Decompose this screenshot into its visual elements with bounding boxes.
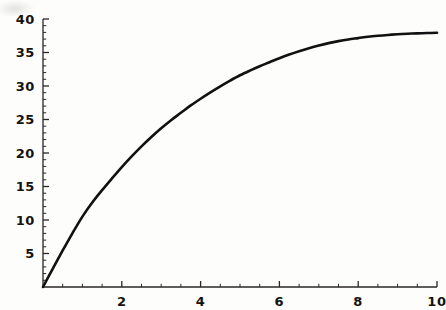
x-axis-tick-label: 10 — [427, 294, 446, 309]
chart-figure: 510152025303540 246810 — [0, 0, 446, 310]
data-series-group — [43, 33, 437, 287]
y-axis-tick-label: 35 — [16, 45, 35, 60]
plot-canvas: 510152025303540 246810 — [0, 0, 446, 310]
x-axis: 246810 — [43, 281, 446, 309]
x-axis-tick-label: 6 — [275, 294, 285, 309]
x-axis-tick-label: 2 — [117, 294, 127, 309]
y-axis-tick-label: 20 — [16, 146, 35, 161]
y-axis-tick-label: 10 — [16, 213, 35, 228]
y-axis-tick-label: 15 — [16, 179, 35, 194]
y-axis-tick-label: 25 — [16, 112, 35, 127]
data-series-line — [43, 33, 437, 287]
y-axis-tick-label: 40 — [16, 12, 35, 27]
y-axis: 510152025303540 — [16, 12, 49, 288]
y-axis-tick-label: 30 — [16, 79, 35, 94]
x-axis-major-ticks — [122, 281, 437, 287]
y-axis-tick-label: 5 — [25, 246, 35, 261]
x-axis-tick-label: 4 — [196, 294, 206, 309]
y-axis-major-ticks — [43, 19, 49, 254]
x-axis-tick-labels: 246810 — [117, 294, 446, 309]
y-axis-tick-labels: 510152025303540 — [16, 12, 35, 262]
x-axis-tick-label: 8 — [353, 294, 363, 309]
